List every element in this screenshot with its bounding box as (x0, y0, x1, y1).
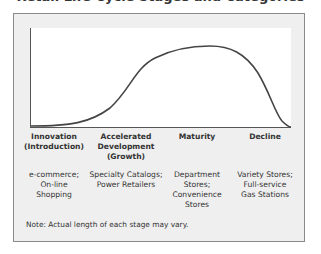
stage-name: Maturity (164, 132, 230, 142)
stage-decline: Decline Variety Stores;Full-serviceGas S… (230, 132, 300, 210)
diagram-frame: Innovation(Introduction) e-commerce;On-l… (13, 13, 305, 242)
stage-example: Stores; (164, 180, 230, 190)
stage-example: Power Retailers (88, 180, 164, 190)
stage-example: Department (164, 170, 230, 180)
stage-name: Decline (230, 132, 300, 142)
stage-name: Accelerated (88, 132, 164, 142)
stage-example: Shopping (20, 190, 88, 200)
stage-example: Variety Stores; (230, 170, 300, 180)
stage-name: Development (88, 142, 164, 152)
stage-growth: AcceleratedDevelopment(Growth) Specialty… (88, 132, 164, 210)
stage-example: Full-service (230, 180, 300, 190)
stage-maturity: Maturity DepartmentStores;ConvenienceSto… (164, 132, 230, 210)
stage-name: Innovation (20, 132, 88, 142)
stage-name: (Introduction) (20, 142, 88, 152)
stage-example: e-commerce; (20, 170, 88, 180)
chart-title: Retail Life Cycle Stages and Categories (0, 0, 321, 4)
stage-example: Specialty Catalogs; (88, 170, 164, 180)
life-cycle-curve (30, 28, 291, 128)
stage-name: (Growth) (88, 152, 164, 162)
stage-columns: Innovation(Introduction) e-commerce;On-l… (20, 132, 300, 210)
stage-example: Convenience (164, 190, 230, 200)
stage-example: Gas Stations (230, 190, 300, 200)
footnote: Note: Actual length of each stage may va… (26, 220, 188, 229)
stage-example: Stores (164, 200, 230, 210)
stage-example: On-line (20, 180, 88, 190)
stage-innovation: Innovation(Introduction) e-commerce;On-l… (20, 132, 88, 210)
plot-area (30, 28, 291, 128)
